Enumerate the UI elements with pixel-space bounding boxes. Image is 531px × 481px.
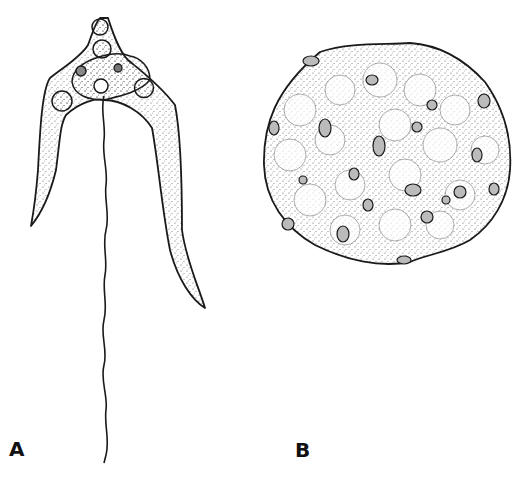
panel-b-cell-mass — [264, 43, 510, 264]
panel-a-flagellum — [103, 96, 108, 463]
panel-label-b: B — [295, 438, 310, 462]
figure-canvas — [0, 0, 531, 481]
panel-a-cell — [31, 18, 205, 308]
panel-label-a: A — [9, 437, 24, 461]
